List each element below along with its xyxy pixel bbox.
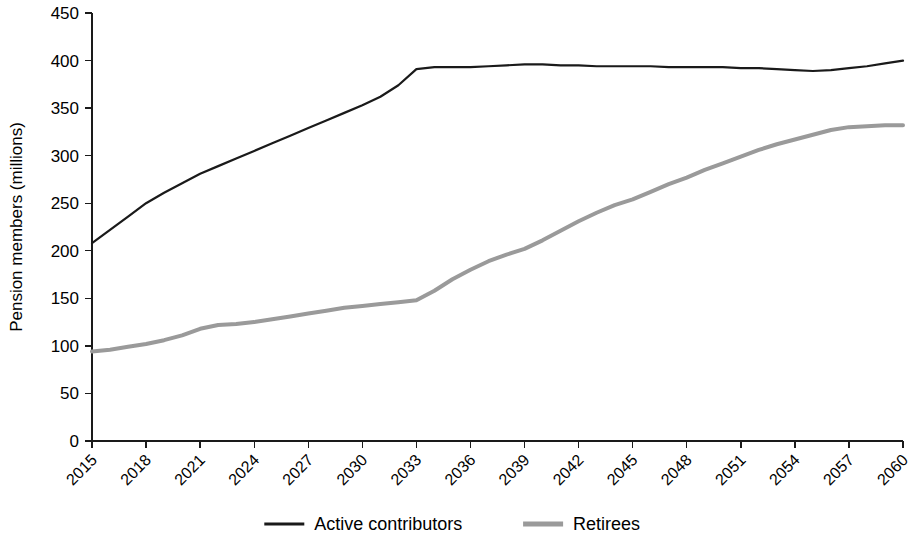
legend-label-active-contributors: Active contributors — [314, 514, 462, 534]
chart-container: Pension members (millions) 0501001502002… — [0, 0, 911, 547]
x-axis-tick-label: 2024 — [225, 451, 262, 488]
y-axis-label-text: Pension members (millions) — [7, 122, 26, 332]
x-axis-tick-label: 2036 — [441, 451, 478, 488]
chart-legend: Active contributorsRetirees — [264, 514, 640, 534]
x-axis-tick-label: 2018 — [117, 451, 154, 488]
x-axis-tick-label: 2051 — [712, 451, 749, 488]
y-axis-tick-label: 400 — [51, 52, 79, 71]
y-axis-tick-label: 350 — [51, 99, 79, 118]
series-lines — [92, 61, 903, 352]
x-axis-tick-label: 2042 — [550, 451, 587, 488]
x-axis-tick-label: 2054 — [766, 451, 803, 488]
x-axis-tick-label: 2015 — [63, 451, 100, 488]
x-axis-tick-label: 2048 — [658, 451, 695, 488]
legend-label-retirees: Retirees — [573, 514, 640, 534]
x-axis-tick-label: 2045 — [604, 451, 641, 488]
x-axis-tick-label: 2033 — [387, 451, 424, 488]
x-axis-tick-label: 2057 — [820, 451, 857, 488]
x-axis-tick-label: 2021 — [171, 451, 208, 488]
x-axis-ticks: 2015201820212024202720302033203620392042… — [63, 441, 911, 488]
y-axis-tick-label: 150 — [51, 289, 79, 308]
y-axis-tick-label: 250 — [51, 194, 79, 213]
series-line-active-contributors — [92, 61, 903, 244]
series-line-retirees — [92, 125, 903, 351]
x-axis-tick-label: 2027 — [279, 451, 316, 488]
y-axis-label: Pension members (millions) — [7, 122, 26, 332]
x-axis-tick-label: 2030 — [333, 451, 370, 488]
x-axis-tick-label: 2039 — [495, 451, 532, 488]
x-axis-tick-label: 2060 — [874, 451, 911, 488]
y-axis-ticks: 050100150200250300350400450 — [51, 4, 92, 451]
y-axis-tick-label: 100 — [51, 337, 79, 356]
y-axis-tick-label: 450 — [51, 4, 79, 23]
y-axis-tick-label: 200 — [51, 242, 79, 261]
y-axis-tick-label: 300 — [51, 147, 79, 166]
y-axis-tick-label: 50 — [60, 384, 79, 403]
line-chart: Pension members (millions) 0501001502002… — [0, 0, 911, 547]
y-axis-tick-label: 0 — [70, 432, 79, 451]
